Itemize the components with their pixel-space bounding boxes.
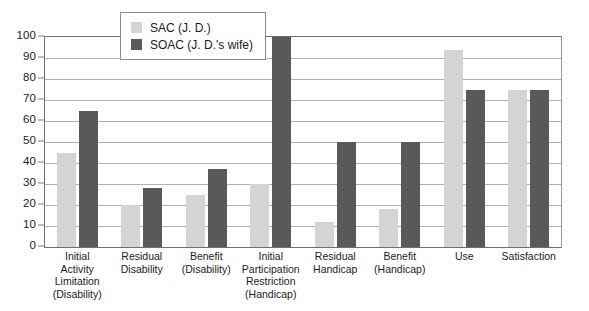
legend-item-label: SAC (J. D.) — [150, 22, 211, 34]
x-axis-category-label: Use — [432, 250, 497, 263]
bar-groups — [45, 37, 561, 247]
bar-group — [497, 37, 562, 247]
y-axis: 1009080706050403020100 — [0, 36, 44, 246]
plot-area — [44, 36, 562, 248]
bar-soac — [401, 142, 420, 247]
x-axis-label-line: Activity — [46, 263, 109, 276]
y-axis-tick-label: 70 — [23, 93, 36, 105]
x-axis-label-line: (Handicap) — [369, 263, 432, 276]
x-axis-label-line: Benefit — [175, 250, 238, 263]
x-axis-label-line: Use — [433, 250, 496, 263]
bar-group — [174, 37, 239, 247]
x-axis-label-line: Benefit — [369, 250, 432, 263]
x-axis-label-line: Handicap — [304, 263, 367, 276]
y-axis-tick-label: 90 — [23, 51, 36, 63]
y-axis-tick-label: 60 — [23, 114, 36, 126]
bar-group — [110, 37, 175, 247]
bar-sac — [250, 184, 269, 247]
x-axis-label-line: Participation — [240, 263, 303, 276]
bar-sac — [508, 90, 527, 248]
x-axis: InitialActivityLimitation(Disability)Res… — [45, 250, 561, 300]
x-axis-label-line: Disability — [111, 263, 174, 276]
x-axis-label-line: Restriction — [240, 275, 303, 288]
legend-swatch-icon — [131, 22, 142, 33]
x-axis-label-line: Residual — [304, 250, 367, 263]
bar-sac — [57, 153, 76, 248]
x-axis-category-label: ResidualDisability — [110, 250, 175, 275]
legend-item: SAC (J. D.) — [131, 19, 253, 36]
x-axis-label-line: Initial — [46, 250, 109, 263]
bar-group — [239, 37, 304, 247]
bar-group — [303, 37, 368, 247]
bar-sac — [186, 195, 205, 248]
y-axis-tick-label: 10 — [23, 219, 36, 231]
legend-item-label: SOAC (J. D.'s wife) — [150, 39, 253, 51]
bar-soac — [530, 90, 549, 248]
bar-group — [45, 37, 110, 247]
y-axis-tick-label: 50 — [23, 135, 36, 147]
bar-sac — [379, 209, 398, 247]
chart-legend: SAC (J. D.)SOAC (J. D.'s wife) — [120, 12, 266, 60]
x-axis-label-line: Satisfaction — [498, 250, 561, 263]
bar-sac — [121, 205, 140, 247]
legend-swatch-icon — [131, 39, 142, 50]
x-axis-label-line: Residual — [111, 250, 174, 263]
x-axis-category-label: InitialActivityLimitation(Disability) — [45, 250, 110, 300]
bar-soac — [208, 169, 227, 247]
x-axis-category-label: Benefit(Disability) — [174, 250, 239, 275]
bar-sac — [315, 222, 334, 247]
bar-group — [368, 37, 433, 247]
x-axis-label-line: (Disability) — [175, 263, 238, 276]
y-axis-tick-label: 100 — [17, 30, 37, 42]
x-axis-category-label: Satisfaction — [497, 250, 562, 263]
bar-group — [432, 37, 497, 247]
y-axis-tick-label: 0 — [30, 240, 37, 252]
x-axis-category-label: ResidualHandicap — [303, 250, 368, 275]
x-axis-label-line: Initial — [240, 250, 303, 263]
x-axis-category-label: InitialParticipationRestriction(Handicap… — [239, 250, 304, 300]
bar-soac — [79, 111, 98, 248]
y-axis-tick-label: 20 — [23, 198, 36, 210]
x-axis-label-line: (Disability) — [46, 288, 109, 301]
x-axis-category-label: Benefit(Handicap) — [368, 250, 433, 275]
x-axis-label-line: (Handicap) — [240, 288, 303, 301]
bar-chart: 1009080706050403020100 SAC (J. D.)SOAC (… — [0, 0, 589, 311]
x-axis-label-line: Limitation — [46, 275, 109, 288]
bar-sac — [444, 50, 463, 247]
y-axis-tick-label: 40 — [23, 156, 36, 168]
bar-soac — [143, 188, 162, 247]
legend-item: SOAC (J. D.'s wife) — [131, 36, 253, 53]
y-axis-tick-label: 80 — [23, 72, 36, 84]
bar-soac — [272, 37, 291, 247]
bar-soac — [337, 142, 356, 247]
y-axis-tick-label: 30 — [23, 177, 36, 189]
bar-soac — [466, 90, 485, 248]
